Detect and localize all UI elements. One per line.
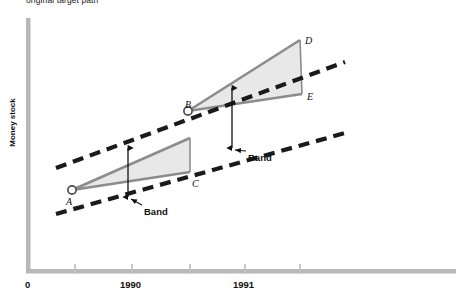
point-marker-a <box>68 186 76 194</box>
x-tick-label-1991: 1991 <box>233 279 254 290</box>
point-label-c: C <box>192 178 199 189</box>
y-axis-line <box>26 18 31 272</box>
point-label-e: E <box>307 91 313 102</box>
band-arrow-left-label: Band <box>144 206 168 217</box>
band-arrow-left-leader <box>131 199 142 205</box>
point-label-d: D <box>305 35 312 46</box>
axis-group <box>26 18 456 274</box>
money-stock-target-path-figure: original target path Money stock <box>0 0 461 304</box>
band-arrow-right-label: Band <box>248 152 272 163</box>
point-label-b: B <box>185 99 191 110</box>
x-tick-label-1990: 1990 <box>120 279 141 290</box>
x-axis-tick <box>189 264 191 274</box>
x-axis-tick <box>244 264 246 274</box>
band-arrow-right-leader <box>235 150 246 151</box>
x-axis-tick <box>131 264 133 274</box>
figure-top-caption: original target path <box>26 0 98 5</box>
upper-band-line <box>56 62 345 168</box>
x-axis-tick <box>299 264 301 274</box>
x-axis-tick <box>74 264 76 274</box>
x-tick-label-0: 0 <box>25 279 30 290</box>
x-axis-line <box>26 269 456 274</box>
point-label-a: A <box>66 196 72 207</box>
lower-band-line <box>56 133 345 214</box>
plot-canvas <box>0 0 461 304</box>
y-axis-label: Money stock <box>8 83 17 163</box>
